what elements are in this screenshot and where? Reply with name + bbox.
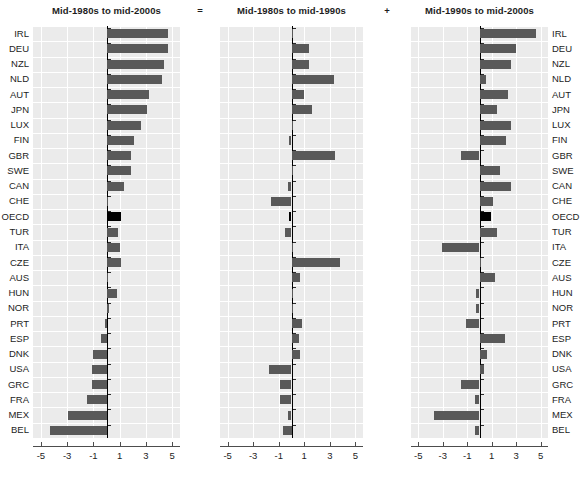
bar-hun bbox=[107, 289, 118, 298]
x-axis-tick bbox=[304, 442, 305, 446]
category-label-fra: FRA bbox=[552, 395, 580, 405]
category-label-bel: BEL bbox=[552, 425, 580, 435]
axis-minor-tick bbox=[108, 165, 111, 166]
gridline-horizontal bbox=[220, 438, 363, 439]
axis-minor-tick bbox=[293, 104, 296, 105]
x-axis-tick-label: -1 bbox=[455, 450, 479, 461]
axis-minor-tick bbox=[293, 211, 296, 212]
axis-minor-tick bbox=[108, 287, 111, 288]
axis-minor-tick bbox=[293, 59, 296, 60]
axis-minor-tick bbox=[481, 379, 484, 380]
category-label-lux: LUX bbox=[1, 120, 29, 130]
bar-oecd bbox=[480, 212, 491, 221]
axis-minor-tick bbox=[108, 409, 111, 410]
axis-minor-tick bbox=[108, 89, 111, 90]
bar-fra bbox=[280, 395, 291, 404]
x-axis-tick bbox=[41, 442, 42, 446]
plot-area bbox=[220, 26, 363, 438]
bar-grc bbox=[461, 380, 479, 389]
category-label-fra: FRA bbox=[1, 395, 29, 405]
bar-aus bbox=[480, 273, 496, 282]
axis-minor-tick bbox=[108, 394, 111, 395]
panel-mid1990s-to-mid2000s: -5-3-1135IRLDEUNZLNLDAUTJPNLUXFINGBRSWEC… bbox=[411, 26, 548, 456]
bar-tur bbox=[107, 228, 119, 237]
axis-minor-tick bbox=[293, 425, 296, 426]
category-label-swe: SWE bbox=[1, 166, 29, 176]
x-axis-tick-label: -5 bbox=[29, 450, 53, 461]
axis-minor-tick bbox=[481, 409, 484, 410]
category-label-nor: NOR bbox=[1, 303, 29, 313]
bar-mex bbox=[434, 411, 479, 420]
axis-minor-tick bbox=[481, 181, 484, 182]
category-label-oecd: OECD bbox=[552, 212, 580, 222]
bar-aut bbox=[292, 90, 305, 99]
bar-lux bbox=[480, 121, 512, 130]
bar-che bbox=[480, 197, 493, 206]
x-axis-tick bbox=[467, 442, 468, 446]
x-axis-tick bbox=[120, 442, 121, 446]
category-label-esp: ESP bbox=[552, 334, 580, 344]
bar-che bbox=[107, 197, 108, 206]
bar-deu bbox=[292, 44, 310, 53]
axis-minor-tick bbox=[293, 28, 296, 29]
axis-minor-tick bbox=[108, 28, 111, 29]
category-label-usa: USA bbox=[1, 364, 29, 374]
bar-can bbox=[480, 182, 512, 191]
category-label-hun: HUN bbox=[552, 288, 580, 298]
axis-minor-tick bbox=[481, 272, 484, 273]
category-label-jpn: JPN bbox=[552, 105, 580, 115]
axis-minor-tick bbox=[108, 333, 111, 334]
category-label-nzl: NZL bbox=[552, 59, 580, 69]
panel-title-left: Mid-1980s to mid-2000s bbox=[33, 5, 180, 16]
bar-prt bbox=[105, 319, 106, 328]
bar-usa bbox=[92, 365, 106, 374]
bar-bel bbox=[50, 426, 106, 435]
bar-can bbox=[288, 182, 292, 191]
bar-nzl bbox=[107, 60, 165, 69]
category-label-cze: CZE bbox=[552, 258, 580, 268]
bar-fin bbox=[289, 136, 292, 145]
axis-minor-tick bbox=[108, 272, 111, 273]
bar-swe bbox=[292, 166, 293, 175]
axis-minor-tick bbox=[481, 318, 484, 319]
axis-minor-tick bbox=[293, 43, 296, 44]
bar-irl bbox=[480, 29, 536, 38]
category-label-nld: NLD bbox=[552, 74, 580, 84]
axis-minor-tick bbox=[293, 226, 296, 227]
bar-irl bbox=[292, 29, 294, 38]
bar-jpn bbox=[107, 105, 148, 114]
bar-cze bbox=[480, 258, 481, 267]
axis-minor-tick bbox=[293, 333, 296, 334]
bar-esp bbox=[480, 334, 506, 343]
category-label-lux: LUX bbox=[552, 120, 580, 130]
category-label-aus: AUS bbox=[1, 273, 29, 283]
category-label-usa: USA bbox=[552, 364, 580, 374]
axis-minor-tick bbox=[481, 74, 484, 75]
category-label-grc: GRC bbox=[1, 380, 29, 390]
axis-minor-tick bbox=[108, 150, 111, 151]
bar-dnk bbox=[93, 350, 106, 359]
category-label-che: CHE bbox=[1, 196, 29, 206]
bar-nor bbox=[476, 304, 480, 313]
category-label-can: CAN bbox=[552, 181, 580, 191]
bar-prt bbox=[292, 319, 302, 328]
bar-dnk bbox=[292, 350, 301, 359]
bar-nld bbox=[480, 75, 486, 84]
x-axis-tick-label: 3 bbox=[504, 450, 528, 461]
axis-minor-tick bbox=[108, 348, 111, 349]
axis-minor-tick bbox=[293, 348, 296, 349]
title-row: Mid-1980s to mid-2000s = Mid-1980s to mi… bbox=[0, 0, 577, 24]
x-axis-tick-label: 3 bbox=[318, 450, 342, 461]
bar-esp bbox=[292, 334, 300, 343]
x-axis-tick-label: -3 bbox=[55, 450, 79, 461]
axis-minor-tick bbox=[108, 120, 111, 121]
axis-minor-tick bbox=[481, 150, 484, 151]
axis-minor-tick bbox=[293, 74, 296, 75]
x-axis-tick bbox=[228, 442, 229, 446]
category-label-fin: FIN bbox=[552, 135, 580, 145]
axis-minor-tick bbox=[293, 409, 296, 410]
bar-aut bbox=[107, 90, 149, 99]
x-axis-line bbox=[411, 446, 548, 447]
bar-gbr bbox=[107, 151, 132, 160]
bar-gbr bbox=[292, 151, 335, 160]
